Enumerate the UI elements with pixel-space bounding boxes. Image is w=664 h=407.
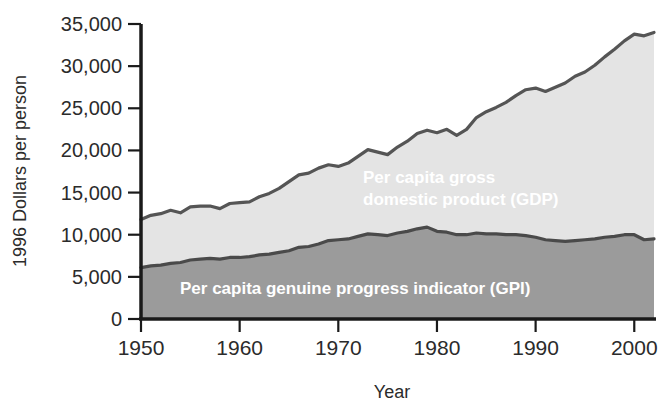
y-tick-label: 15,000 xyxy=(61,182,122,204)
gpi-series-label: Per capita genuine progress indicator (G… xyxy=(180,279,530,298)
x-tick-label: 1970 xyxy=(315,336,362,359)
x-axis-ticks: 195019601970198019902000 xyxy=(118,319,658,359)
x-tick-label: 1990 xyxy=(512,336,559,359)
y-tick-label: 30,000 xyxy=(61,55,122,77)
x-tick-label: 1980 xyxy=(414,336,461,359)
y-tick-label: 25,000 xyxy=(61,97,122,119)
y-tick-label: 35,000 xyxy=(61,13,122,35)
gdp-gpi-area-chart: 35,00030,00025,00020,00015,00010,0005,00… xyxy=(0,0,664,407)
y-tick-label: 5,000 xyxy=(72,266,122,288)
x-tick-label: 1960 xyxy=(216,336,263,359)
x-tick-label: 2000 xyxy=(611,336,658,359)
y-axis-ticks: 35,00030,00025,00020,00015,00010,0005,00… xyxy=(61,13,141,330)
y-tick-label: 20,000 xyxy=(61,139,122,161)
y-tick-label: 10,000 xyxy=(61,224,122,246)
chart-container: 35,00030,00025,00020,00015,00010,0005,00… xyxy=(0,0,664,407)
x-tick-label: 1950 xyxy=(118,336,165,359)
y-tick-label: 0 xyxy=(111,308,122,330)
y-axis-title: 1996 Dollars per person xyxy=(10,75,30,267)
x-axis-title: Year xyxy=(374,382,410,402)
gdp-series-label-line1: Per capita gross xyxy=(363,168,495,187)
gdp-series-label-line2: domestic product (GDP) xyxy=(363,190,559,209)
